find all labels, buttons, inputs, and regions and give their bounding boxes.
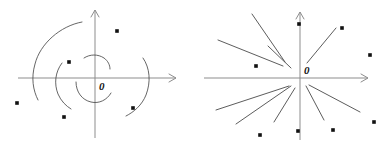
sample-dot	[331, 128, 335, 132]
sample-dot	[340, 26, 344, 30]
sample-dot	[368, 53, 372, 57]
sample-dot	[258, 133, 262, 137]
ray-lower-left-steep	[274, 88, 295, 122]
ray-lower-right-shallow	[309, 85, 360, 112]
right-axes-group	[204, 12, 368, 140]
star-node-phase-portrait-panel: 0	[190, 0, 381, 153]
right-origin-label: 0	[304, 64, 310, 76]
sample-dot	[131, 106, 135, 110]
ray-upper-left-steep	[252, 14, 285, 62]
sample-dot	[62, 115, 66, 119]
right-trajectory-group	[216, 14, 360, 124]
ray-lower-left-mid	[236, 86, 291, 124]
sample-dot	[372, 120, 376, 124]
right-sample-dots-group	[254, 22, 376, 137]
ray-upper-left-shallow	[218, 40, 283, 66]
sample-dot	[115, 29, 119, 33]
outer-right-spiral-arc	[126, 58, 149, 116]
sample-dot	[254, 64, 258, 68]
phase-portrait-figure: 0	[0, 0, 381, 153]
left-origin-label: 0	[99, 80, 105, 92]
left-axes-group	[18, 10, 176, 138]
sample-dot	[296, 129, 300, 133]
spiral-phase-portrait-svg: 0	[0, 0, 190, 153]
star-node-phase-portrait-svg: 0	[190, 0, 381, 153]
sample-dot	[67, 60, 71, 64]
sample-dot	[15, 101, 19, 105]
spiral-phase-portrait-panel: 0	[0, 0, 190, 153]
left-trajectory-group	[33, 22, 149, 116]
ray-upper-right-steep	[307, 28, 336, 63]
ray-lower-left-shallow	[216, 86, 289, 110]
mid-left-spiral-arc	[56, 63, 71, 109]
inner-lower-spiral-arc	[76, 82, 111, 103]
outer-spiral-arc	[33, 22, 82, 100]
inner-upper-spiral-arc	[84, 55, 110, 69]
sample-dot	[297, 22, 301, 26]
